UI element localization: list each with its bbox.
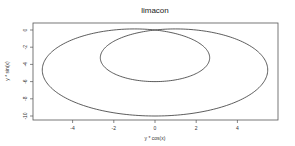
y-tick-label: -8 [22,96,28,101]
x-tick-label: 2 [195,125,198,131]
plot-area-frame [33,23,278,120]
y-tick-label: -4 [22,62,28,67]
limacon-curve [42,29,267,116]
x-tick-label: -2 [112,125,117,131]
y-tick-label: -6 [22,79,28,84]
x-tick-label: 0 [154,125,157,131]
y-axis: 0-2-4-6-8-10 [22,28,33,119]
y-axis-label: y * sin(x) [4,61,10,81]
y-tick-label: -10 [22,112,28,119]
x-axis: -4-2024 [70,120,239,131]
x-axis-label: y * cos(x) [145,135,166,141]
y-tick-label: 0 [22,28,28,31]
y-tick-label: -2 [22,45,28,50]
x-tick-label: 4 [236,125,239,131]
chart-title: limacon [141,6,169,15]
limacon-chart: limacon -4-2024 0-2-4-6-8-10 y * cos(x) … [0,0,295,146]
x-tick-label: -4 [70,125,75,131]
